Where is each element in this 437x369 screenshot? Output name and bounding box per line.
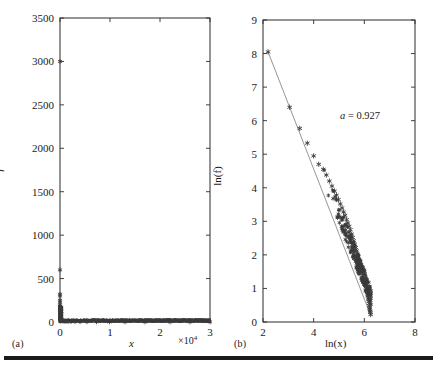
figure-container: 05001000150020002500300035000123 f x ×10… bbox=[0, 0, 437, 369]
panel-a: 05001000150020002500300035000123 f x ×10… bbox=[0, 0, 220, 369]
y-tick-label: 8 bbox=[252, 48, 258, 60]
x-tick-label: 0 bbox=[57, 326, 63, 338]
dense-tail-points bbox=[58, 305, 211, 323]
y-tick-label: 3 bbox=[252, 215, 258, 227]
panel-a-label: (a) bbox=[12, 338, 24, 349]
data-point-group bbox=[58, 59, 212, 324]
y-tick-label: 500 bbox=[38, 273, 55, 285]
y-tick-label: 1000 bbox=[32, 229, 55, 241]
y-tick-label: 4 bbox=[252, 182, 258, 194]
y-tick-label: 9 bbox=[252, 14, 258, 26]
y-tick-label: 5 bbox=[252, 148, 258, 160]
x-tick-label: 2 bbox=[260, 326, 266, 338]
y-tick-label: 1 bbox=[252, 282, 258, 294]
y-tick-label: 1500 bbox=[32, 186, 55, 198]
x-tick-label: 6 bbox=[362, 326, 368, 338]
y-tick-label: 6 bbox=[252, 115, 258, 127]
multiplier-base: ×10 bbox=[178, 335, 194, 346]
x-tick-label: 3 bbox=[207, 326, 213, 338]
panel-b-label: (b) bbox=[234, 338, 246, 349]
y-tick-label: 3000 bbox=[32, 55, 55, 67]
scatter-cloud-points bbox=[322, 168, 372, 306]
panel-b: 01234567892468 (b) bbox=[220, 0, 437, 369]
y-tick-label: 3500 bbox=[32, 12, 55, 24]
y-tick-label: 2500 bbox=[32, 99, 55, 111]
chart-a-x-axis-title: x bbox=[129, 337, 134, 349]
annotation-equals: = bbox=[345, 110, 356, 121]
x-tick-label: 1 bbox=[107, 326, 113, 338]
y-tick-label: 2 bbox=[252, 249, 258, 261]
chart-b-y-axis-title: ln(f) bbox=[211, 166, 223, 186]
x-tick-label: 8 bbox=[412, 326, 418, 338]
y-tick-label: 7 bbox=[252, 81, 258, 93]
x-tick-label: 2 bbox=[157, 326, 163, 338]
chart-b-x-axis-title: ln(x) bbox=[325, 337, 346, 349]
multiplier-exponent: 4 bbox=[194, 334, 198, 342]
y-tick-label: 0 bbox=[49, 316, 55, 328]
bottom-divider bbox=[4, 356, 433, 360]
chart-b-plot: 01234567892468 bbox=[220, 0, 437, 369]
y-tick-label: 2000 bbox=[32, 142, 55, 154]
chart-a-y-axis-title: f bbox=[0, 168, 4, 171]
annotation-value: 0.927 bbox=[356, 110, 380, 121]
chart-a-plot: 05001000150020002500300035000123 bbox=[0, 0, 220, 369]
chart-a-x-multiplier: ×104 bbox=[178, 334, 197, 346]
chart-b-fit-annotation: a = 0.927 bbox=[340, 110, 380, 121]
y-tick-label: 0 bbox=[252, 316, 258, 328]
x-tick-label: 4 bbox=[311, 326, 317, 338]
